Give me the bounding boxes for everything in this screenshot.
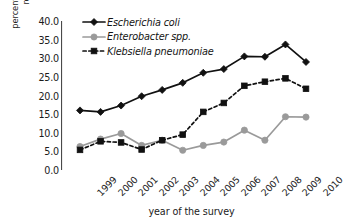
y-axis-tick-labels: 40.035.030.025.020.015.010.05.00.0 bbox=[30, 0, 59, 224]
x-axis-tick-label: 2002 bbox=[156, 174, 180, 198]
x-axis-tick-label: 2004 bbox=[197, 174, 221, 198]
x-axis-tick-label: 2009 bbox=[300, 174, 324, 198]
y-axis-tick-label: 30.0 bbox=[38, 53, 59, 64]
legend-item: Klebsiella pneumoniae bbox=[82, 44, 262, 59]
x-axis-title: year of the survey bbox=[61, 206, 322, 217]
y-axis-tick-label: 0.0 bbox=[44, 165, 59, 176]
x-axis-tick-label: 2000 bbox=[115, 174, 139, 198]
x-axis-tick-label: 2003 bbox=[177, 174, 201, 198]
y-axis-title-line-1: percentage of fluoroquinolone- bbox=[10, 0, 20, 29]
legend-marker-circle-icon bbox=[82, 31, 106, 43]
x-axis-tick-label: 2005 bbox=[218, 174, 242, 198]
y-axis-tick-label: 40.0 bbox=[38, 16, 59, 27]
legend-label: Escherichia coli bbox=[107, 17, 180, 28]
y-axis-tick-label: 15.0 bbox=[38, 109, 59, 120]
x-axis-tick-label: 2008 bbox=[280, 174, 304, 198]
chart-series bbox=[77, 76, 309, 153]
chart-series bbox=[77, 114, 309, 154]
x-axis-tick-label: 1999 bbox=[95, 174, 119, 198]
legend-label: Enterobacter spp. bbox=[107, 31, 191, 42]
legend-marker-diamond-icon bbox=[82, 16, 106, 28]
x-axis-tick-label: 2010 bbox=[321, 174, 345, 198]
legend-item: Enterobacter spp. bbox=[82, 30, 262, 45]
x-axis-tick-label: 2001 bbox=[136, 174, 160, 198]
y-axis-tick-label: 5.0 bbox=[44, 146, 59, 157]
y-axis-tick-label: 35.0 bbox=[38, 34, 59, 45]
legend-label: Klebsiella pneumoniae bbox=[107, 46, 214, 57]
x-axis-tick-label: 2007 bbox=[259, 174, 283, 198]
x-axis-tick-label: 2006 bbox=[239, 174, 263, 198]
y-axis-tick-label: 20.0 bbox=[38, 90, 59, 101]
legend-marker-square-icon bbox=[82, 45, 106, 57]
legend-item: Escherichia coli bbox=[82, 15, 262, 30]
chart-legend: Escherichia coliEnterobacter spp.Klebsie… bbox=[82, 15, 262, 59]
y-axis-tick-label: 10.0 bbox=[38, 127, 59, 138]
x-axis-tick-labels: 1999200020012002200320042005200620072008… bbox=[61, 172, 322, 206]
y-axis-tick-label: 25.0 bbox=[38, 71, 59, 82]
